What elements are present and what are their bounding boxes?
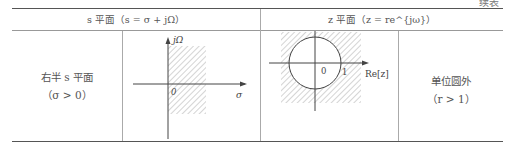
s-origin-label: 0 <box>171 87 177 97</box>
table-bottom-border <box>12 141 503 142</box>
jomega-label: jΩ <box>171 35 184 45</box>
s-plane-figure: jΩ σ 0 <box>123 31 260 141</box>
re-label: Re[z] <box>365 69 389 79</box>
re-arrow-icon <box>362 61 369 66</box>
sigma-label: σ <box>236 90 243 100</box>
header-s-plane: s 平面（s = σ + jΩ） <box>12 9 260 30</box>
z-region-description: 单位圆外 （r > 1） <box>399 72 503 108</box>
jomega-arrow-icon <box>166 37 171 44</box>
sigma-arrow-icon <box>240 82 247 87</box>
z-origin-label: 0 <box>321 66 326 76</box>
s-region-description: 右半 s 平面 （σ > 0） <box>12 68 122 104</box>
right-half-plane-hatch <box>168 46 206 114</box>
z-plane-figure: Im[z] Re[z] 0 1 <box>261 31 398 141</box>
z-region-line1: 单位圆外 <box>399 72 503 90</box>
header-z-plane: z 平面（z = re^{jω}） <box>261 9 503 30</box>
unit-label: 1 <box>342 67 347 77</box>
s-region-line1: 右半 s 平面 <box>12 68 122 86</box>
s-region-line2: （σ > 0） <box>12 86 122 104</box>
z-region-line2: （r > 1） <box>399 90 503 108</box>
